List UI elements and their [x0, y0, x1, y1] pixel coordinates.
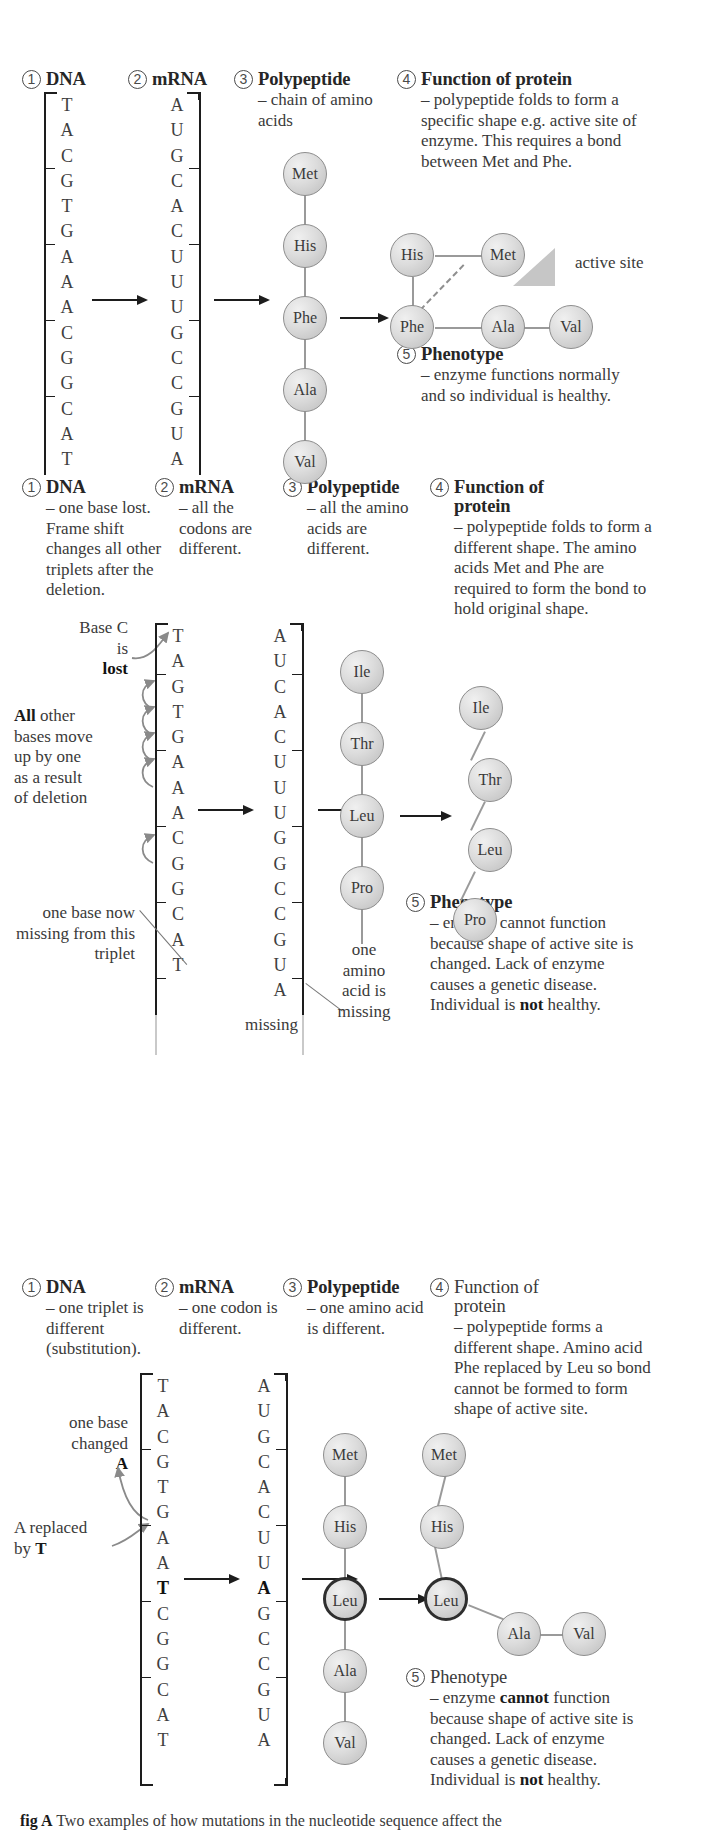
step-1-heading-deletion: 1DNA – one base lost. Frame shift change…: [22, 478, 162, 601]
nucleotide: A: [244, 1475, 284, 1500]
step-number-3: 3: [283, 1278, 302, 1297]
amino-acid-mutated: Leu: [323, 1577, 367, 1621]
nucleotide: U: [244, 1526, 284, 1551]
step-title-phenotype: Phenotype: [421, 345, 503, 364]
step-title-mrna: mRNA: [179, 1278, 234, 1297]
dna-bases: TACGTGAATCGGCAT: [143, 1374, 183, 1753]
replaced-base-t: T: [35, 1539, 46, 1558]
step-3-body: – one amino acid is different.: [307, 1298, 432, 1339]
nucleotide: A: [47, 422, 87, 447]
nucleotide: C: [157, 169, 197, 194]
nucleotide: G: [143, 1652, 183, 1677]
step-1-heading-substitution: 1DNA – one triplet is different (substit…: [22, 1278, 162, 1360]
amino-acid: Phe: [283, 296, 327, 340]
replaced-l2-pre: by: [14, 1539, 35, 1558]
step-title-dna: DNA: [46, 478, 86, 497]
amino-acid: Thr: [340, 722, 384, 766]
figure-label: fig A: [20, 1812, 52, 1829]
step-2-heading-deletion: 2mRNA – all the codons are different.: [155, 478, 280, 560]
nucleotide: G: [157, 397, 197, 422]
nucleotide: T: [47, 447, 87, 472]
nucleotide: C: [244, 1500, 284, 1525]
one-base-missing-annotation: one base now missing from this triplet: [10, 903, 135, 965]
step-4-body: – polypeptide folds to form a specific s…: [421, 90, 649, 172]
nucleotide: U: [157, 118, 197, 143]
nucleotide: U: [157, 270, 197, 295]
arrow-polypeptide-to-protein: [340, 312, 388, 324]
figure-caption-text: Two examples of how mutations in the nuc…: [56, 1812, 502, 1829]
step-1-heading-normal: 1DNA: [22, 70, 132, 89]
dna-bases: TAGTGAAACGGCAT: [158, 624, 198, 978]
step-1-body: – one triplet is different (substitution…: [46, 1298, 164, 1360]
nucleotide: G: [158, 675, 198, 700]
amino-acid: Leu: [468, 828, 512, 872]
nucleotide: C: [260, 725, 300, 750]
nucleotide: G: [157, 321, 197, 346]
nucleotide: G: [244, 1602, 284, 1627]
step-3-body: – chain of amino acids: [258, 90, 378, 131]
nucleotide: T: [158, 700, 198, 725]
arrow-dna-to-mrna: [92, 294, 148, 306]
nucleotide: A: [47, 118, 87, 143]
step-4-body: – polypeptide folds to form a different …: [454, 517, 659, 620]
nucleotide: A: [143, 1526, 183, 1551]
nucleotide: T: [143, 1374, 183, 1399]
step-title-function: Function of protein: [454, 1278, 574, 1316]
step-title-mrna: mRNA: [179, 478, 234, 497]
nucleotide: A: [244, 1576, 284, 1601]
step-title-polypeptide: Polypeptide: [307, 1278, 399, 1297]
nucleotide: G: [47, 371, 87, 396]
nucleotide: C: [47, 321, 87, 346]
mrna-bases: AUCACUUUGGCCGUA: [260, 624, 300, 1003]
step-title-function: Function of protein: [421, 70, 572, 89]
nucleotide: T: [143, 1475, 183, 1500]
amino-acid: His: [420, 1505, 464, 1549]
nucleotide: U: [260, 801, 300, 826]
panel-normal: 1DNA 2mRNA 3Polypeptide – chain of amino…: [0, 0, 708, 475]
step-1-body: – one base lost. Frame shift changes all…: [46, 498, 164, 601]
step-5-body: – enzyme functions normally and so indiv…: [421, 365, 641, 406]
nucleotide: A: [47, 270, 87, 295]
nucleotide: G: [143, 1627, 183, 1652]
step-title-mrna: mRNA: [152, 70, 207, 89]
amino-acid: Met: [283, 152, 327, 196]
nucleotide: U: [260, 750, 300, 775]
amino-acid: Ile: [340, 650, 384, 694]
nucleotide: A: [244, 1374, 284, 1399]
amino-acid: Ala: [323, 1649, 367, 1693]
nucleotide: C: [143, 1602, 183, 1627]
one-amino-missing-annotation: one amino acid is missing: [330, 940, 398, 1022]
step-title-polypeptide: Polypeptide: [258, 70, 350, 89]
active-site-label: active site: [575, 253, 685, 274]
nucleotide: G: [260, 852, 300, 877]
step-title-polypeptide: Polypeptide: [307, 478, 399, 497]
step-number-2: 2: [155, 478, 174, 497]
panel-substitution: 1DNA – one triplet is different (substit…: [0, 1278, 708, 1835]
nucleotide: G: [158, 852, 198, 877]
arrow-dna-to-mrna: [198, 804, 254, 816]
mrna-bases: AUGCACUUAGCCGUA: [244, 1374, 284, 1753]
nucleotide: G: [47, 346, 87, 371]
nucleotide: C: [260, 675, 300, 700]
nucleotide: C: [158, 902, 198, 927]
amino-acid: His: [390, 233, 434, 277]
step-2-body: – one codon is different.: [179, 1298, 284, 1339]
nucleotide: A: [260, 978, 300, 1003]
nucleotide: C: [143, 1425, 183, 1450]
nucleotide: U: [260, 953, 300, 978]
figure-caption: fig A Two examples of how mutations in t…: [20, 1812, 690, 1830]
nucleotide: U: [244, 1399, 284, 1424]
amino-acid: Ala: [283, 368, 327, 412]
nucleotide: A: [158, 750, 198, 775]
amino-acid: Pro: [340, 866, 384, 910]
step-3-heading-deletion: 3Polypeptide – all the amino acids are d…: [283, 478, 428, 560]
nucleotide: C: [157, 346, 197, 371]
nucleotide: A: [158, 776, 198, 801]
step-number-3: 3: [234, 70, 253, 89]
nucleotide: A: [143, 1551, 183, 1576]
nucleotide: C: [157, 371, 197, 396]
amino-acid: Phe: [390, 305, 434, 349]
step-number-1: 1: [22, 1278, 41, 1297]
step-3-heading-normal: 3Polypeptide – chain of amino acids: [234, 70, 374, 131]
nucleotide: U: [260, 776, 300, 801]
